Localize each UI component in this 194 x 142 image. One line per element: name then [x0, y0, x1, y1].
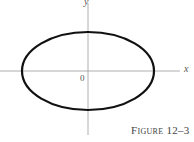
- x-axis-label: x: [184, 63, 188, 74]
- ellipse-diagram: [0, 0, 194, 142]
- origin-label: 0: [80, 73, 85, 83]
- y-axis-label: y: [84, 0, 88, 7]
- figure-caption: Figure 12–3: [131, 124, 190, 136]
